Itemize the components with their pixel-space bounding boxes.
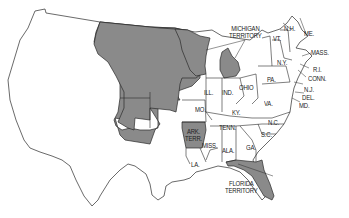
label-mass: MASS. <box>311 49 329 56</box>
label-ri: R.I. <box>313 66 322 73</box>
label-ind: IND. <box>222 89 233 96</box>
label-me: ME. <box>304 30 314 37</box>
label-nj: N.J. <box>304 86 314 93</box>
label-ill: ILL. <box>204 89 213 96</box>
label-ark-terr: ARK. TERR. <box>185 128 202 142</box>
label-line: TERRITORY <box>225 187 258 194</box>
label-la: LA. <box>191 161 199 168</box>
label-ga: GA. <box>246 144 256 151</box>
label-nh: N.H. <box>284 25 295 32</box>
label-mo: MO. <box>195 106 206 113</box>
label-ky: KY. <box>232 109 240 116</box>
label-pa: PA. <box>267 76 276 83</box>
label-ala: ALA. <box>222 147 234 154</box>
label-tenn: TENN. <box>219 124 236 131</box>
label-florida-territory: FLORIDA TERRITORY <box>225 180 258 194</box>
label-nc: N.C. <box>268 119 279 126</box>
label-line: ARK. <box>185 128 202 135</box>
leader-lines <box>0 0 349 218</box>
label-ny: N.Y. <box>277 59 287 66</box>
label-conn: CONN. <box>308 75 326 82</box>
label-miss: MISS. <box>202 142 217 149</box>
label-md: MD. <box>299 102 309 109</box>
label-line: FLORIDA <box>225 180 258 187</box>
label-va: VA. <box>264 100 273 107</box>
label-sc: S.C. <box>261 131 272 138</box>
label-line: TERR. <box>185 135 202 142</box>
label-del: DEL. <box>302 94 315 101</box>
label-vt: VT. <box>273 35 281 42</box>
label-ohio: OHIO <box>239 84 254 91</box>
